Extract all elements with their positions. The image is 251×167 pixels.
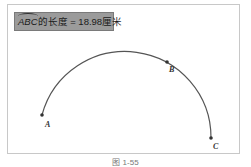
arc-diagram: A B C: [0, 0, 251, 167]
label-c: C: [213, 142, 219, 151]
label-b: B: [168, 65, 175, 74]
point-a[interactable]: [40, 113, 44, 117]
point-c[interactable]: [209, 136, 213, 140]
label-a: A: [44, 120, 51, 129]
point-b[interactable]: [165, 60, 169, 64]
arc-abc[interactable]: [42, 52, 211, 138]
figure-caption: 图 1-55: [0, 156, 251, 167]
